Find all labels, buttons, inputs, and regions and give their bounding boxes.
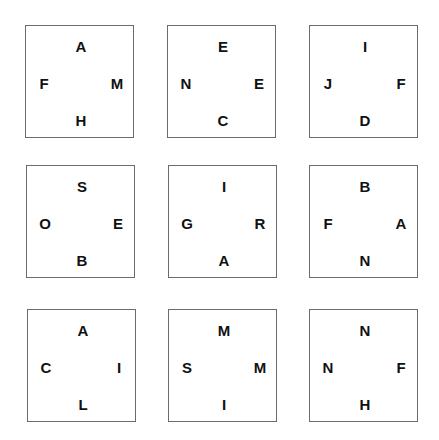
letter-right: R [255,216,266,231]
letter-right: M [111,76,124,91]
letter-left: O [39,216,51,231]
letter-box-5: I G R A [168,165,277,278]
letter-top: A [78,323,89,338]
letter-left: F [39,76,48,91]
letter-right: F [396,76,405,91]
letter-box-9: N N F H [309,309,418,422]
letter-bottom: L [78,397,87,412]
letter-top: I [222,179,226,194]
letter-left: N [181,76,192,91]
letter-top: A [76,39,87,54]
letter-box-2: E N E C [167,25,276,138]
letter-box-6: B F A N [309,165,418,278]
letter-top: S [77,179,87,194]
letter-left: C [41,360,52,375]
letter-box-8: M S M I [168,309,277,422]
letter-bottom: N [360,253,371,268]
letter-box-7: A C I L [27,309,136,422]
letter-bottom: H [76,113,87,128]
letter-left: G [181,216,193,231]
letter-right: A [396,216,407,231]
letter-top: B [360,179,371,194]
letter-box-4: S O E B [26,165,135,278]
letter-top: M [218,323,231,338]
letter-right: I [117,360,121,375]
letter-left: F [323,216,332,231]
letter-left: S [182,360,192,375]
letter-top: E [218,39,228,54]
letter-right: E [113,216,123,231]
letter-bottom: C [218,113,229,128]
letter-box-3: I J F D [309,25,418,138]
letter-bottom: D [360,113,371,128]
letter-top: N [360,323,371,338]
letter-bottom: B [77,253,88,268]
letter-top: I [363,39,367,54]
letter-bottom: A [219,253,230,268]
letter-box-1: A F M H [25,25,134,138]
letter-left: N [323,360,334,375]
letter-right: F [396,360,405,375]
letter-right: E [254,76,264,91]
letter-bottom: I [222,397,226,412]
letter-right: M [254,360,267,375]
letter-bottom: H [360,397,371,412]
letter-left: J [324,76,332,91]
